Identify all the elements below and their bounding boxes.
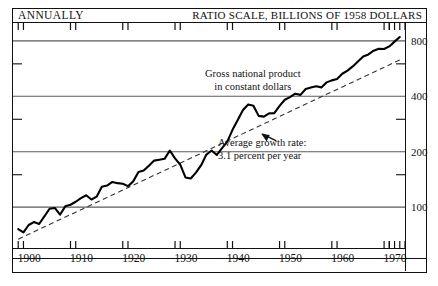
header-band: ANNUALLY RATIO SCALE, BILLIONS OF 1958 D… (12, 8, 427, 23)
series-annotation-line2: in constant dollars (205, 81, 301, 94)
y-tick-label: 200 (411, 146, 428, 157)
series-annotation: Gross national product in constant dolla… (205, 68, 301, 93)
gnp-series-line (18, 37, 400, 232)
x-tick-label: 1910 (70, 249, 93, 267)
x-tick-label: 1930 (175, 249, 198, 267)
x-tick-label: 1950 (279, 249, 302, 267)
y-axis-labels: 100200400800 (406, 23, 427, 248)
chart-canvas (13, 23, 405, 248)
growth-rate-annotation: Average growth rate: 3.1 percent per yea… (218, 137, 306, 162)
x-tick-label: 1920 (122, 249, 145, 267)
scale-units-label: RATIO SCALE, BILLIONS OF 1958 DOLLARS (192, 8, 422, 23)
x-tick-label: 1970 (384, 249, 407, 267)
y-tick-label: 800 (411, 35, 428, 46)
top-tick-marks (18, 23, 405, 30)
y-tick-label: 100 (411, 202, 428, 213)
chart-figure: ANNUALLY RATIO SCALE, BILLIONS OF 1958 D… (0, 0, 438, 286)
gridlines (13, 41, 405, 207)
y-tick-label: 400 (411, 91, 428, 102)
x-tick-label: 1900 (18, 249, 41, 267)
bottom-tick-marks (18, 241, 405, 248)
frequency-label: ANNUALLY (18, 8, 84, 23)
plot-area (13, 23, 405, 248)
x-tick-label: 1940 (227, 249, 250, 267)
growth-rate-line2: 3.1 percent per year (218, 150, 306, 163)
growth-rate-line1: Average growth rate: (218, 137, 306, 150)
series-annotation-line1: Gross national product (205, 68, 301, 81)
x-tick-label: 1960 (331, 249, 354, 267)
x-axis-labels: 19001910192019301940195019601970 (0, 249, 438, 267)
